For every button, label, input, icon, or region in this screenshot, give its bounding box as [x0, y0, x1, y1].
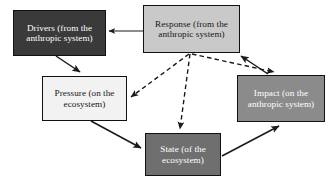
node-state[interactable]: State (of the ecosystem): [145, 133, 221, 176]
edge-response-to-state: [180, 54, 190, 129]
node-impact-label: Impact (on the anthropic system): [248, 88, 314, 109]
node-impact[interactable]: Impact (on the anthropic system): [237, 75, 325, 122]
node-pressure[interactable]: Pressure (on the ecosystem): [42, 76, 127, 121]
node-response-label: Response (from the anthropic system): [155, 19, 228, 40]
node-drivers[interactable]: Drivers (from the anthropic system): [13, 10, 106, 56]
edge-state-to-impact: [222, 126, 279, 156]
node-pressure-label: Pressure (on the ecosystem): [55, 88, 115, 109]
edge-pressure-to-state: [91, 121, 141, 148]
node-state-label: State (of the ecosystem): [160, 144, 206, 165]
node-drivers-label: Drivers (from the anthropic system): [26, 23, 92, 44]
edge-drivers-to-pressure: [56, 56, 80, 72]
edge-response-to-pressure: [131, 54, 189, 97]
dpsir-diagram: Drivers (from the anthropic system) Resp…: [0, 0, 335, 186]
node-response[interactable]: Response (from the anthropic system): [143, 5, 240, 53]
edge-response-to-impact: [192, 54, 274, 72]
